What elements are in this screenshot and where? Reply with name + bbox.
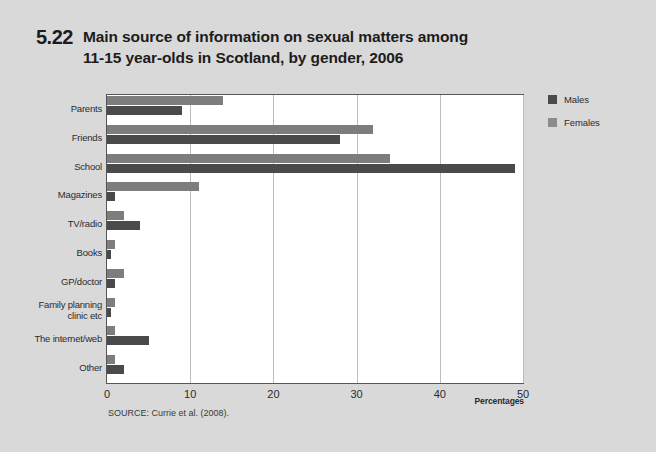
legend-label: Females <box>564 117 600 128</box>
bar-males-magazines <box>107 192 115 201</box>
title-line-2: 11-15 year-olds in Scotland, by gender, … <box>83 47 468 68</box>
category-label-magazines: Magazines <box>0 189 102 200</box>
bar-females-magazines <box>107 182 199 191</box>
source-note: SOURCE: Currie et al. (2008). <box>108 408 229 418</box>
category-label-line: Friends <box>0 132 102 143</box>
bar-males-other <box>107 365 124 374</box>
category-label-gp-doctor: GP/doctor <box>0 276 102 287</box>
bar-females-family-planning-clinic-etc <box>107 298 115 307</box>
x-tick-label-10: 10 <box>184 388 196 400</box>
category-label-line: Parents <box>0 103 102 114</box>
category-label-line: Family planning <box>0 299 102 310</box>
category-label-line: Magazines <box>0 189 102 200</box>
category-label-books: Books <box>0 247 102 258</box>
legend-swatch-icon-females <box>548 118 557 127</box>
legend-swatch-icon-males <box>548 95 557 104</box>
y-axis-category-labels: ParentsFriendsSchoolMagazinesTV/radioBoo… <box>0 94 102 384</box>
bar-males-school <box>107 164 515 173</box>
page-title: Main source of information on sexual mat… <box>83 26 468 68</box>
legend-item-females[interactable]: Females <box>548 117 648 128</box>
bar-females-the-internet-web <box>107 326 115 335</box>
bar-males-family-planning-clinic-etc <box>107 308 111 317</box>
category-label-line: TV/radio <box>0 218 102 229</box>
chart-bars-layer <box>107 95 523 383</box>
title-line-1: Main source of information on sexual mat… <box>83 26 468 47</box>
bar-females-gp-doctor <box>107 269 124 278</box>
category-label-line: School <box>0 161 102 172</box>
bar-females-parents <box>107 96 223 105</box>
bar-males-the-internet-web <box>107 336 149 345</box>
gridline-50 <box>523 95 524 383</box>
category-label-family-planning-clinic-etc: Family planningclinic etc <box>0 299 102 321</box>
bar-females-books <box>107 240 115 249</box>
category-label-the-internet-web: The internet/web <box>0 333 102 344</box>
chart-legend: MalesFemales <box>548 94 648 140</box>
figure-number: 5.22 <box>36 26 73 48</box>
bar-males-parents <box>107 106 182 115</box>
chart-plot-area <box>106 94 524 384</box>
category-label-line: Other <box>0 362 102 373</box>
bar-females-friends <box>107 125 373 134</box>
category-label-school: School <box>0 161 102 172</box>
bar-males-friends <box>107 135 340 144</box>
legend-item-males[interactable]: Males <box>548 94 648 105</box>
x-tick-label-20: 20 <box>267 388 279 400</box>
category-label-tv-radio: TV/radio <box>0 218 102 229</box>
bar-females-other <box>107 355 115 364</box>
bar-females-school <box>107 154 390 163</box>
category-label-line: clinic etc <box>0 310 102 321</box>
x-tick-label-0: 0 <box>104 388 110 400</box>
figure-title-block: 5.22 Main source of information on sexua… <box>36 26 516 68</box>
category-label-line: Books <box>0 247 102 258</box>
bar-males-gp-doctor <box>107 279 115 288</box>
category-label-parents: Parents <box>0 103 102 114</box>
category-label-friends: Friends <box>0 132 102 143</box>
category-label-other: Other <box>0 362 102 373</box>
legend-label: Males <box>564 94 589 105</box>
x-tick-label-30: 30 <box>350 388 362 400</box>
category-label-line: GP/doctor <box>0 276 102 287</box>
bar-females-tv-radio <box>107 211 124 220</box>
x-axis-title: Percentages <box>404 396 524 406</box>
bar-males-books <box>107 250 111 259</box>
bar-males-tv-radio <box>107 221 140 230</box>
category-label-line: The internet/web <box>0 333 102 344</box>
